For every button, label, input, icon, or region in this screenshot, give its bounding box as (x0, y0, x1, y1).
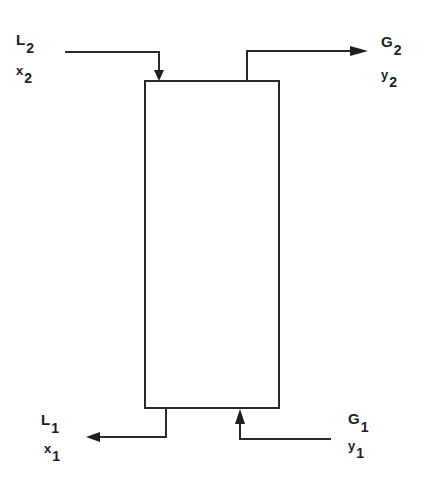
liquid-outlet-arrow-icon (86, 432, 100, 442)
composition-subscript: 1 (52, 448, 60, 464)
flow-subscript: 2 (26, 40, 34, 56)
composition-symbol: x (16, 63, 23, 78)
gas-inlet-arrow-icon (235, 409, 245, 424)
composition-symbol: x (44, 441, 51, 456)
flow-symbol: G (381, 33, 393, 50)
gas-inlet-flow-label: G1 (348, 411, 368, 427)
flow-subscript: 1 (51, 420, 59, 436)
gas-inlet-line (240, 420, 330, 439)
gas-outlet-flow-label: G2 (381, 34, 401, 50)
liquid-outlet-composition-label: x1 (44, 440, 60, 456)
liquid-outlet-line (96, 408, 166, 437)
liquid-inlet-line (66, 52, 159, 72)
flow-subscript: 1 (361, 419, 369, 435)
composition-subscript: 2 (389, 74, 397, 90)
flow-symbol: L (41, 411, 50, 428)
composition-subscript: 1 (356, 445, 364, 461)
column-body (145, 81, 279, 408)
composition-symbol: y (348, 438, 355, 453)
gas-inlet-composition-label: y1 (348, 437, 364, 453)
flow-symbol: G (348, 410, 360, 427)
flow-subscript: 2 (394, 42, 402, 58)
liquid-inlet-arrow-icon (154, 70, 164, 81)
gas-outlet-line (247, 51, 358, 81)
gas-outlet-arrow-icon (350, 46, 368, 56)
liquid-outlet-flow-label: L1 (41, 412, 59, 428)
gas-outlet-composition-label: y2 (381, 66, 397, 82)
liquid-inlet-composition-label: x2 (16, 62, 32, 78)
liquid-inlet-flow-label: L2 (16, 32, 34, 48)
composition-symbol: y (381, 67, 388, 82)
composition-subscript: 2 (24, 70, 32, 86)
flow-symbol: L (16, 31, 25, 48)
